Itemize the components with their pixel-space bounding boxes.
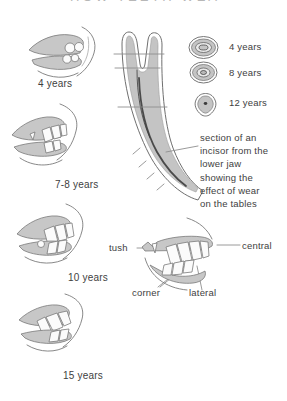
age-label-10-years: 10 years [68, 272, 108, 283]
table-cross-section-8-years [189, 61, 218, 84]
age-label-15-years: 15 years [63, 370, 103, 381]
jaw-profile-10-years [14, 202, 90, 270]
age-label-4-years: 4 years [38, 78, 72, 89]
legend-label-4-years: 4 years [229, 41, 262, 52]
incisor-section-caption: section of an incisor from the lower jaw… [200, 131, 287, 210]
cropped-page-heading: HOW TEETH WEAR [70, 0, 220, 4]
table-cross-section-4-years [188, 35, 219, 60]
table-cross-section-12-years [192, 92, 219, 119]
tooth-label-tush: tush [109, 242, 128, 253]
jaw-profile-7-8-years [10, 101, 84, 173]
teeth-wear-diagram-page: HOW TEETH WEAR 4 years 7-8 years [0, 0, 287, 401]
legend-label-12-years: 12 years [229, 97, 267, 108]
tooth-label-central: central [242, 240, 272, 251]
age-label-7-8-years: 7-8 years [55, 179, 99, 190]
tooth-label-corner: corner [132, 287, 160, 298]
jaw-profile-15-years [15, 292, 90, 358]
jaw-profile-4-years [26, 25, 98, 82]
tooth-label-lateral: lateral [189, 287, 216, 298]
legend-label-8-years: 8 years [229, 67, 262, 78]
labeled-jaw-diagram [105, 216, 240, 294]
